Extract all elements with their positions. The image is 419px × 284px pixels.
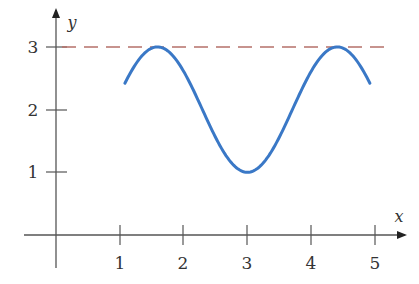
chart: 1 2 3 4 5 1 2 3 x y [0, 0, 419, 284]
y-tick-label: 1 [28, 162, 39, 182]
y-axis-label: y [66, 13, 77, 32]
x-tick-label: 1 [115, 253, 126, 273]
x-tick-label: 4 [306, 253, 317, 273]
curve-line [125, 47, 370, 172]
x-tick-label: 5 [370, 253, 381, 273]
y-tick-label: 3 [28, 37, 39, 57]
x-axis-label: x [394, 207, 403, 226]
x-tick-label: 2 [178, 253, 189, 273]
x-tick-label: 3 [242, 253, 253, 273]
y-tick-label: 2 [28, 100, 39, 120]
